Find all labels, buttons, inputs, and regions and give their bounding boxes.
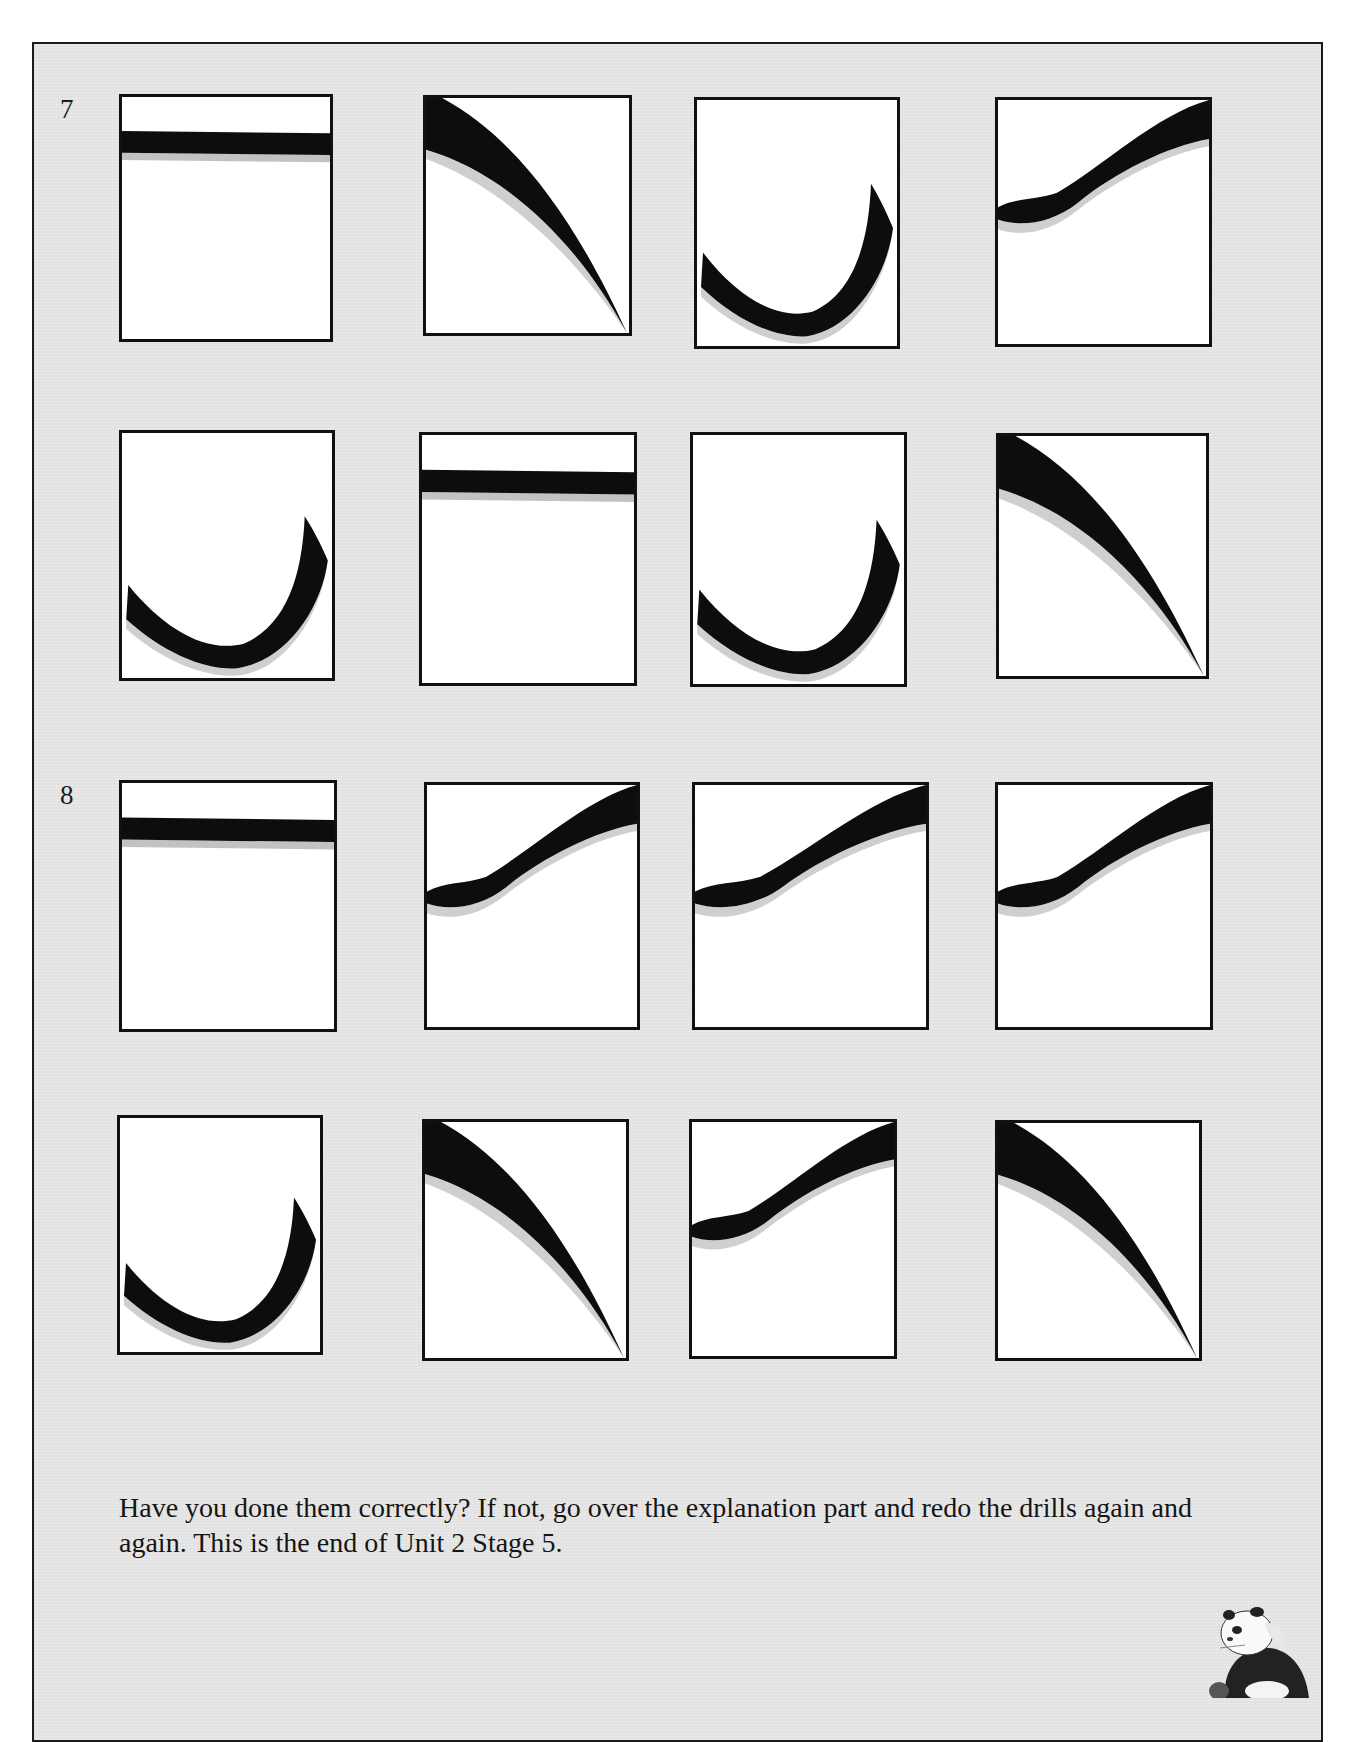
rising-wave-stroke-icon	[427, 785, 637, 1027]
stroke-card[interactable]	[694, 97, 900, 349]
stroke-card[interactable]	[117, 1115, 323, 1355]
stroke-card[interactable]	[119, 94, 333, 342]
curved-hook-stroke-icon	[122, 433, 332, 678]
rising-wave-stroke-icon	[695, 785, 926, 1027]
left-falling-stroke-icon	[998, 1123, 1199, 1358]
horizontal-stroke-icon	[422, 435, 634, 683]
rising-wave-stroke-icon	[998, 100, 1209, 344]
stroke-card[interactable]	[995, 1120, 1202, 1361]
curved-hook-stroke-icon	[120, 1118, 320, 1352]
curved-hook-stroke-icon	[693, 435, 904, 684]
stroke-card[interactable]	[692, 782, 929, 1030]
stroke-card[interactable]	[422, 1119, 629, 1361]
left-falling-stroke-icon	[425, 1122, 626, 1358]
left-falling-stroke-icon	[999, 436, 1206, 676]
stroke-card[interactable]	[689, 1119, 897, 1359]
left-falling-stroke-icon	[426, 98, 629, 333]
closing-instructions: Have you done them correctly? If not, go…	[119, 1490, 1239, 1560]
stroke-card[interactable]	[119, 780, 337, 1032]
horizontal-stroke-icon	[122, 783, 334, 1029]
group-number: 8	[60, 782, 74, 809]
group-number: 7	[60, 96, 74, 123]
horizontal-stroke-icon	[122, 97, 330, 339]
stroke-card[interactable]	[419, 432, 637, 686]
rising-wave-stroke-icon	[692, 1122, 894, 1356]
stroke-card[interactable]	[119, 430, 335, 681]
stroke-card[interactable]	[995, 782, 1213, 1030]
stroke-card[interactable]	[424, 782, 640, 1030]
stroke-card[interactable]	[690, 432, 907, 687]
panda-icon	[1205, 1603, 1315, 1698]
rising-wave-stroke-icon	[998, 785, 1210, 1027]
stroke-card[interactable]	[995, 97, 1212, 347]
curved-hook-stroke-icon	[697, 100, 897, 346]
stroke-card[interactable]	[423, 95, 632, 336]
stroke-card[interactable]	[996, 433, 1209, 679]
